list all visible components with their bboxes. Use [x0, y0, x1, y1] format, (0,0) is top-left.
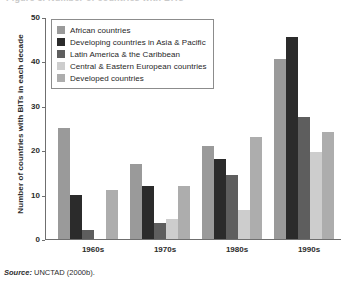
- source-note: Source: UNCTAD (2000b).: [4, 268, 95, 277]
- legend-item: Central & Eastern European countries: [57, 60, 207, 72]
- bar: [202, 146, 214, 239]
- y-axis-tick-label: 40: [21, 58, 40, 66]
- bar: [154, 223, 166, 239]
- y-axis-tick-mark: [42, 240, 45, 241]
- bar: [70, 195, 82, 239]
- y-axis-tick-mark: [42, 151, 45, 152]
- bar: [322, 132, 334, 239]
- bar: [58, 128, 70, 239]
- y-axis-tick-mark: [42, 107, 45, 108]
- legend-swatch-icon: [57, 62, 65, 70]
- legend-item: Developing countries in Asia & Pacific: [57, 36, 207, 48]
- legend-item-label: Developed countries: [70, 74, 144, 83]
- bar: [142, 186, 154, 239]
- bar: [178, 186, 190, 239]
- clipped-title-strip: Figure 3. Number of countries with BITs: [0, 0, 346, 8]
- bar: [214, 159, 226, 239]
- bar: [82, 230, 94, 239]
- x-axis-line: [45, 239, 341, 240]
- source-label: Source:: [4, 268, 32, 277]
- y-axis-tick-label: 20: [21, 147, 40, 155]
- y-axis-tick-mark: [42, 18, 45, 19]
- y-axis-tick-label: 30: [21, 103, 40, 111]
- legend-swatch-icon: [57, 26, 65, 34]
- x-axis-tick-label: 1970s: [130, 245, 200, 254]
- legend-swatch-icon: [57, 50, 65, 58]
- source-value: UNCTAD (2000b).: [34, 268, 95, 277]
- y-axis-tick-mark: [42, 196, 45, 197]
- bar: [130, 164, 142, 239]
- bar: [250, 137, 262, 239]
- legend-item-label: Developing countries in Asia & Pacific: [70, 38, 206, 47]
- legend-item-label: Latin America & the Caribbean: [70, 50, 180, 59]
- figure-title: Figure 3. Number of countries with BITs: [6, 0, 184, 3]
- bar-group-bars: [274, 17, 334, 239]
- y-axis-tick-label: 50: [21, 14, 40, 22]
- bar: [286, 37, 298, 239]
- bar-group: 1990s: [274, 17, 344, 239]
- bar: [238, 210, 250, 239]
- legend-item: Developed countries: [57, 72, 207, 84]
- legend-item: Latin America & the Caribbean: [57, 48, 207, 60]
- x-axis-tick-label: 1980s: [202, 245, 272, 254]
- bar: [310, 152, 322, 239]
- bar: [274, 59, 286, 239]
- figure-container: Figure 3. Number of countries with BITs …: [0, 0, 346, 286]
- legend-item: African countries: [57, 24, 207, 36]
- legend-swatch-icon: [57, 38, 65, 46]
- bar: [106, 190, 118, 239]
- y-axis-line: [45, 18, 46, 240]
- bar: [298, 117, 310, 239]
- bar: [166, 219, 178, 239]
- y-axis-tick-label: 0: [21, 236, 40, 244]
- y-axis-tick-mark: [42, 62, 45, 63]
- x-axis-tick-label: 1960s: [58, 245, 128, 254]
- bar: [226, 175, 238, 239]
- legend-swatch-icon: [57, 74, 65, 82]
- x-axis-tick-label: 1990s: [274, 245, 344, 254]
- legend-item-label: African countries: [70, 26, 130, 35]
- legend-item-label: Central & Eastern European countries: [70, 62, 207, 71]
- y-axis-tick-label: 10: [21, 192, 40, 200]
- y-axis-title: Number of countries with BITs in each de…: [14, 4, 28, 244]
- chart-legend: African countriesDeveloping countries in…: [51, 19, 214, 89]
